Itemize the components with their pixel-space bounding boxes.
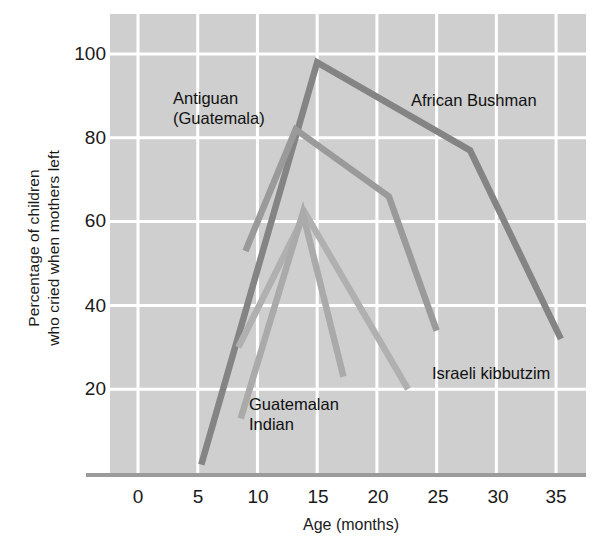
x-tick-0: 0: [113, 487, 163, 506]
x-axis-line: [86, 473, 586, 477]
label-antiguan: Antiguan (Guatemala): [173, 88, 265, 128]
x-tick-5: 5: [173, 487, 223, 506]
label-african-bushman: African Bushman: [411, 90, 537, 110]
label-antiguan-line1: Antiguan: [173, 89, 238, 107]
x-tick-15: 15: [293, 487, 343, 506]
x-tick-10: 10: [233, 487, 283, 506]
label-antiguan-line2: (Guatemala): [173, 109, 265, 127]
label-guatemalan-line1: Guatemalan: [249, 395, 339, 413]
chart-container: 100 80 60 40 20 0 5 10 15 20 25 30 35 Pe…: [0, 0, 616, 548]
y-axis-title-line2: who cried when mothers left: [44, 18, 64, 478]
label-guatemalan-indian: Guatemalan Indian: [249, 394, 339, 434]
label-israeli-kibbutzim: Israeli kibbutzim: [432, 363, 550, 383]
y-axis-title-line1: Percentage of children: [24, 18, 44, 478]
y-tick-20: 20: [62, 379, 106, 398]
line-chart-svg: [110, 14, 586, 473]
x-tick-35: 35: [531, 487, 581, 506]
x-tick-30: 30: [473, 487, 523, 506]
y-axis-title: Percentage of children who cried when mo…: [24, 18, 64, 478]
x-axis-title: Age (months): [0, 516, 616, 534]
label-israeli-kibbutzim-text: Israeli kibbutzim: [432, 364, 550, 382]
label-guatemalan-line2: Indian: [249, 415, 294, 433]
label-african-bushman-text: African Bushman: [411, 91, 537, 109]
y-tick-40: 40: [62, 296, 106, 315]
x-axis-title-text: Age (months): [217, 516, 399, 533]
x-tick-25: 25: [413, 487, 463, 506]
y-tick-60: 60: [62, 211, 106, 230]
x-tick-20: 20: [353, 487, 403, 506]
y-tick-80: 80: [62, 128, 106, 147]
y-tick-100: 100: [62, 44, 106, 63]
plot-area: [110, 14, 586, 473]
